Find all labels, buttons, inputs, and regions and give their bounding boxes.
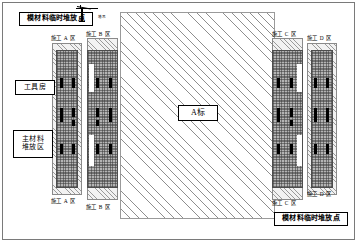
tower-crane-icon-top xyxy=(76,5,100,23)
block-c-unit xyxy=(290,120,293,126)
block-b-unit xyxy=(96,120,99,126)
zone-label-a-bottom: 施工 A 区 xyxy=(51,197,75,205)
block-b-joint xyxy=(89,135,94,166)
block-c-unit xyxy=(277,78,280,88)
zone-label-c-top: 施工 C 区 xyxy=(272,30,296,38)
block-b-unit xyxy=(96,144,99,154)
block-b-joint xyxy=(89,64,94,92)
block-d-unit xyxy=(326,108,329,122)
block-b-unit xyxy=(96,78,99,88)
block-a-unit xyxy=(72,108,75,117)
zone-label-b-top: 施工 B 区 xyxy=(86,30,110,38)
zone-label-d-top: 施工 D 区 xyxy=(307,34,331,42)
block-d-unit xyxy=(314,108,317,122)
zone-label-a-top: 施工 A 区 xyxy=(51,34,75,42)
callout-bottom-material-point: 模材料临时堆放点 xyxy=(274,212,348,226)
block-c-unit xyxy=(277,108,280,122)
block-a-unit xyxy=(60,144,63,154)
block-c-joint xyxy=(297,64,302,92)
block-a-unit xyxy=(60,78,63,88)
block-d-unit xyxy=(326,78,329,88)
block-b-unit xyxy=(109,144,112,154)
block-a-unit xyxy=(72,78,75,88)
site-plan-diagram: A标 施工 A 区 施工 A 区 施工 B 区 施工 B 区 施工 C 区 施工… xyxy=(0,0,357,242)
block-b-unit xyxy=(109,78,112,88)
block-c-unit xyxy=(290,78,293,88)
block-b-unit xyxy=(96,108,99,117)
block-c-unit xyxy=(290,144,293,154)
zone-label-d-bottom: 施工 D 区 xyxy=(307,190,331,198)
block-d-unit xyxy=(314,78,317,88)
block-c-unit xyxy=(290,108,293,117)
block-a-unit xyxy=(72,144,75,154)
block-d-unit xyxy=(326,144,329,154)
block-a-unit xyxy=(60,108,63,122)
central-plot-label: A标 xyxy=(178,105,218,121)
block-a-unit xyxy=(72,120,75,126)
zone-label-b-bottom: 施工 B 区 xyxy=(86,203,110,211)
crane-tag-top: 塔吊 xyxy=(98,14,106,19)
callout-tool-room: 工具房 xyxy=(15,80,55,95)
block-d-unit xyxy=(314,144,317,154)
block-c-joint xyxy=(297,135,302,166)
block-c-unit xyxy=(277,144,280,154)
callout-main-material-area: 主材料 堆放区 xyxy=(13,130,53,158)
zone-label-c-bottom: 施工 C 区 xyxy=(272,199,296,207)
block-b-unit xyxy=(109,108,112,122)
